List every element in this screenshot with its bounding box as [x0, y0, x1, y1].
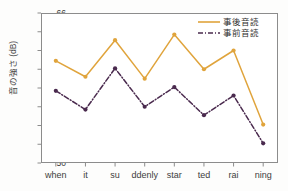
legend-swatch-pre — [198, 29, 220, 37]
x-tick-label: when — [45, 170, 67, 180]
chart-legend: 事後音読 事前音読 — [196, 15, 262, 40]
legend-label-pre: 事前音読 — [223, 28, 259, 38]
x-tick-label: star — [167, 170, 182, 180]
legend-label-post: 事後音読 — [223, 17, 259, 27]
legend-item-pre: 事前音読 — [198, 28, 259, 38]
x-tick-label: ted — [198, 170, 211, 180]
x-tick-label: rai — [229, 170, 239, 180]
x-tick-label: ning — [255, 170, 272, 180]
x-tick-label: it — [83, 170, 88, 180]
line-chart: 音の強さ (dB) 505254565860626466 whenitsudde… — [0, 0, 288, 191]
legend-swatch-post — [198, 18, 220, 26]
x-tick-label: su — [110, 170, 120, 180]
x-tick-label: ddenly — [131, 170, 158, 180]
legend-item-post: 事後音読 — [198, 17, 259, 27]
